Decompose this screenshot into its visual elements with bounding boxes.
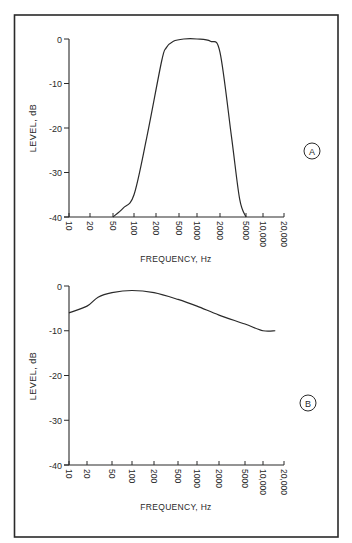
x-tick-label: 5000 bbox=[240, 469, 250, 488]
y-axis-label: LEVEL, dB bbox=[28, 104, 38, 153]
y-tick-label: 0 bbox=[57, 282, 62, 292]
x-tick-label: 1000 bbox=[192, 221, 202, 240]
x-tick-label: 10,000 bbox=[258, 469, 268, 495]
panel-label: A bbox=[309, 147, 315, 157]
panel-label: B bbox=[305, 399, 311, 409]
x-tick-label: 2000 bbox=[215, 221, 225, 240]
x-tick-label: 5000 bbox=[241, 221, 251, 240]
x-tick-label: 50 bbox=[107, 469, 117, 479]
figure-frame bbox=[15, 15, 339, 537]
x-tick-label: 500 bbox=[173, 469, 183, 483]
x-tick-label: 200 bbox=[149, 469, 159, 483]
x-tick-label: 10 bbox=[64, 469, 74, 479]
response-curve bbox=[69, 290, 275, 331]
x-tick-label: 100 bbox=[127, 469, 137, 483]
y-tick-label: -30 bbox=[49, 416, 62, 426]
x-tick-label: 20,000 bbox=[279, 221, 289, 247]
y-tick-label: -30 bbox=[49, 168, 62, 178]
x-tick-label: 2000 bbox=[214, 469, 224, 488]
x-tick-label: 1000 bbox=[192, 469, 202, 488]
y-tick-label: -20 bbox=[49, 371, 62, 381]
y-axis-label: LEVEL, dB bbox=[28, 352, 38, 401]
x-axis-label: FREQUENCY, Hz bbox=[140, 502, 211, 512]
y-tick-label: 0 bbox=[57, 35, 62, 45]
chart-panel-a: 0-10-20-30-40102050100200500100020005000… bbox=[28, 35, 320, 265]
y-tick-label: -40 bbox=[49, 213, 62, 223]
x-tick-label: 20 bbox=[85, 221, 95, 231]
y-tick-label: -40 bbox=[49, 461, 62, 471]
y-tick-label: -10 bbox=[49, 326, 62, 336]
y-tick-label: -20 bbox=[49, 124, 62, 134]
x-tick-label: 500 bbox=[174, 221, 184, 235]
x-tick-label: 20 bbox=[82, 469, 92, 479]
x-tick-label: 100 bbox=[129, 221, 139, 235]
x-tick-label: 200 bbox=[151, 221, 161, 235]
response-curve bbox=[113, 39, 246, 217]
x-tick-label: 20,000 bbox=[279, 469, 289, 495]
y-tick-label: -10 bbox=[49, 79, 62, 89]
x-tick-label: 10 bbox=[64, 221, 74, 231]
chart-panel-b: 0-10-20-30-40102050100200500100020005000… bbox=[28, 282, 316, 513]
x-tick-label: 50 bbox=[108, 221, 118, 231]
x-axis-label: FREQUENCY, Hz bbox=[140, 254, 211, 264]
figure: 0-10-20-30-40102050100200500100020005000… bbox=[0, 0, 352, 543]
x-tick-label: 10,000 bbox=[258, 221, 268, 247]
